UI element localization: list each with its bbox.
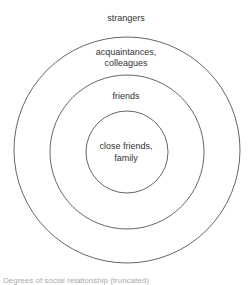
caption-truncated: Degrees of social relationship (truncate…	[3, 276, 149, 285]
label-friends: friends	[0, 91, 252, 102]
label-acquaintances-2: colleagues	[0, 58, 252, 69]
label-close-2: family	[0, 153, 252, 164]
label-acquaintances-1: acquaintances,	[0, 47, 252, 58]
label-strangers: strangers	[0, 13, 252, 24]
inner-circle-close	[86, 111, 168, 193]
label-close-1: close friends,	[0, 141, 252, 152]
